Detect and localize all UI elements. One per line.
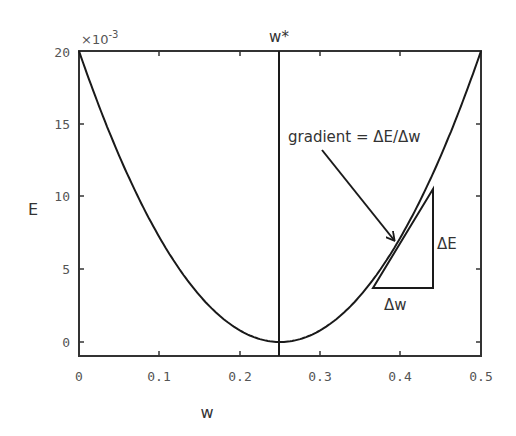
gradient-descent-chart: 0 5 10 15 20 ×10-3 0 0.1 0.2 0.3 0.4 0.5… (0, 0, 516, 436)
gradient-triangle (373, 189, 433, 288)
x-tick-label: 0.2 (228, 369, 251, 384)
delta-w-label: Δw (384, 296, 407, 314)
optimum-label: w* (269, 28, 289, 46)
x-axis-label: w (200, 403, 213, 422)
gradient-arrow (322, 150, 394, 240)
y-tick-label: 5 (62, 262, 70, 277)
y-tick-label: 20 (54, 45, 70, 60)
y-axis-label: E (28, 200, 38, 219)
x-tick-label: 0.1 (147, 369, 170, 384)
y-tick-label: 15 (54, 117, 70, 132)
x-tick-label: 0.5 (469, 369, 492, 384)
delta-e-label: ΔE (437, 235, 457, 253)
x-tick-label: 0 (75, 369, 83, 384)
x-tick-label: 0.4 (388, 369, 412, 384)
x-tick-label: 0.3 (308, 369, 331, 384)
y-tick-label: 0 (62, 335, 70, 350)
gradient-label: gradient = ΔE/Δw (288, 128, 421, 146)
y-tick-label: 10 (54, 189, 70, 204)
y-multiplier: ×10-3 (81, 29, 118, 47)
